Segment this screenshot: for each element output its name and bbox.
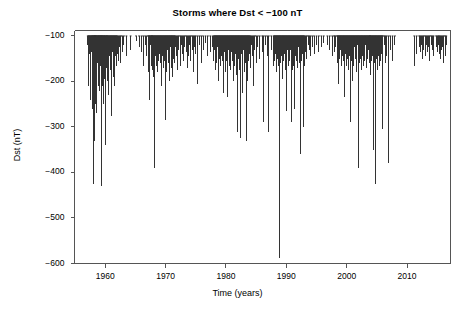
x-tick-label: 1970 — [146, 271, 186, 281]
x-tick-label: 2000 — [327, 271, 367, 281]
x-tick-label: 1960 — [85, 271, 125, 281]
chart-figure: Storms where Dst < −100 nT −100−200−300−… — [0, 0, 475, 323]
plot-axes — [71, 31, 451, 268]
x-tick-label: 2010 — [387, 271, 427, 281]
x-tick-label: 1980 — [206, 271, 246, 281]
y-tick-label: −400 — [25, 166, 65, 176]
y-tick-label: −300 — [25, 121, 65, 131]
y-tick-label: −500 — [25, 212, 65, 222]
y-tick-label: −100 — [25, 30, 65, 40]
y-tick-label: −200 — [25, 75, 65, 85]
storm-stems — [87, 36, 447, 259]
y-tick-label: −600 — [25, 258, 65, 268]
x-axis-title: Time (years) — [0, 288, 475, 298]
y-axis-title: Dst (nT) — [12, 95, 22, 195]
x-tick-label: 1990 — [266, 271, 306, 281]
